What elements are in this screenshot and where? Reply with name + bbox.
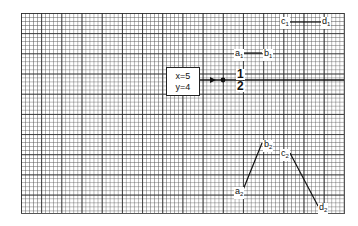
label-a1: a1	[234, 49, 244, 61]
point-marker-icon	[221, 78, 226, 83]
diagram-lines	[0, 0, 358, 226]
arrow-head-icon	[210, 77, 216, 83]
box-line-y: y=4	[167, 82, 199, 93]
segment-c2-d2	[290, 153, 318, 206]
label-b2: b2	[263, 140, 273, 152]
label-d2: d2	[318, 203, 328, 215]
box-line-x: x=5	[167, 71, 199, 82]
segment-a2-b2	[243, 143, 262, 190]
label-c2: c2	[280, 149, 290, 161]
label-d1: d1	[321, 17, 331, 29]
label-c1: c1	[280, 17, 290, 29]
fraction-denominator: 2	[236, 81, 245, 92]
label-b1: b1	[263, 49, 273, 61]
coordinate-box: x=5 y=4	[166, 67, 200, 96]
label-a2: a2	[234, 187, 244, 199]
